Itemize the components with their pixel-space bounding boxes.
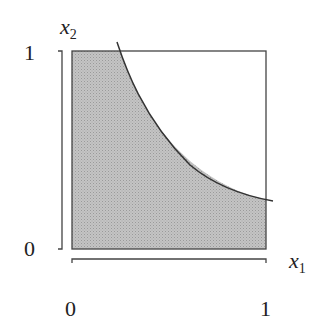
- diagram-canvas: [0, 0, 323, 333]
- x-axis-bracket: [72, 259, 266, 263]
- x-axis-label: x1: [289, 250, 306, 276]
- y-axis-bracket: [58, 51, 62, 249]
- y-axis-label: x2: [60, 16, 77, 42]
- shaded-region: [72, 51, 272, 249]
- x-tick-1: 1: [260, 298, 271, 320]
- y-tick-1: 1: [24, 42, 35, 64]
- y-tick-0: 0: [24, 238, 35, 260]
- x-tick-0: 0: [65, 298, 76, 320]
